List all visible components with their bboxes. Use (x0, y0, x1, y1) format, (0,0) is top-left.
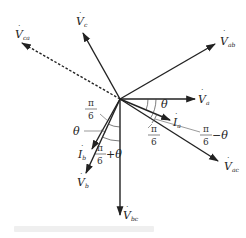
svg-text:π: π (88, 98, 94, 108)
label-ib: · Ib (77, 141, 86, 161)
svg-text:Va: Va (198, 93, 210, 106)
vector-vca (22, 43, 120, 99)
arc-pi6-b (108, 124, 120, 127)
figure-caption (14, 226, 154, 232)
svg-text:6: 6 (88, 111, 94, 121)
svg-text:π: π (151, 124, 157, 134)
angle-pi6-plus-theta: π 6 +θ (94, 143, 122, 166)
angle-pi6-b: π 6 (85, 98, 97, 121)
arc-theta-a (146, 99, 148, 110)
svg-text:−θ: −θ (212, 129, 228, 142)
label-vbc: · Vbc (123, 202, 139, 222)
label-vab: · Vab (220, 26, 236, 48)
label-ia: · Ia (172, 109, 181, 129)
angle-theta-b: θ (73, 125, 80, 138)
svg-text:Vca: Vca (15, 28, 30, 41)
leader-pi6-b (100, 114, 108, 121)
angle-theta-a: θ (161, 98, 168, 111)
label-vc: · Vc (76, 8, 88, 28)
svg-text:Vbc: Vbc (123, 209, 139, 222)
label-va: · Va (198, 85, 210, 106)
svg-text:π: π (203, 124, 209, 134)
label-vac: · Vac (224, 153, 240, 173)
svg-text:Vb: Vb (77, 176, 89, 189)
svg-text:6: 6 (203, 137, 209, 147)
vector-ib (92, 99, 120, 149)
phasor-diagram: · Vc · Vca · Vab · Va · Ia · Vac · Vbc ·… (0, 0, 246, 238)
svg-text:Vab: Vab (220, 35, 236, 48)
svg-text:+θ: +θ (106, 148, 122, 161)
angle-pi6-a: π 6 (148, 124, 160, 147)
svg-text:Ib: Ib (77, 148, 86, 161)
svg-text:6: 6 (151, 137, 157, 147)
svg-text:6: 6 (97, 156, 103, 166)
vector-vc (83, 33, 120, 99)
arc-pi6-plus-theta (102, 137, 120, 141)
svg-text:Vc: Vc (76, 15, 88, 28)
svg-text:Vac: Vac (224, 160, 240, 173)
svg-text:π: π (97, 143, 103, 153)
label-vca: · Vca (15, 21, 30, 41)
svg-text:·: · (223, 26, 226, 35)
angle-pi6-minus-theta: π 6 −θ (200, 124, 228, 147)
svg-text:Ia: Ia (172, 116, 181, 129)
arc-pi6-a (150, 99, 156, 119)
